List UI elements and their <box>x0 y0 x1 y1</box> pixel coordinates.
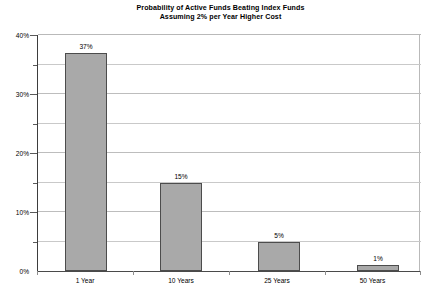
bar-1-year <box>65 53 107 271</box>
gridline-40 <box>38 34 421 35</box>
chart-title-line-2: Assuming 2% per Year Higher Cost <box>0 13 441 22</box>
y-axis-tick-20 <box>30 153 37 154</box>
bar-value-label-1-year: 37% <box>65 43 107 50</box>
x-axis-tick-1 <box>133 271 134 275</box>
x-axis-tick-3 <box>325 271 326 275</box>
bar-chart: Probability of Active Funds Beating Inde… <box>0 0 441 300</box>
x-axis-label-1-year: 1 Year <box>37 277 133 285</box>
x-axis-tick-4 <box>420 271 421 275</box>
bar-25-years <box>258 242 300 272</box>
chart-title-line-1: Probability of Active Funds Beating Inde… <box>0 4 441 13</box>
y-axis-tick-10 <box>30 212 37 213</box>
chart-title: Probability of Active Funds Beating Inde… <box>0 4 441 23</box>
y-axis-label-20: 20% <box>3 150 29 157</box>
bar-value-label-25-years: 5% <box>258 232 300 239</box>
y-axis-tick-30 <box>30 94 37 95</box>
x-axis-tick-2 <box>229 271 230 275</box>
x-axis-label-50-years: 50 Years <box>325 277 420 285</box>
y-axis-label-30: 30% <box>3 91 29 98</box>
bar-10-years <box>160 183 202 272</box>
x-axis-label-25-years: 25 Years <box>229 277 325 285</box>
x-axis-label-10-years: 10 Years <box>133 277 229 285</box>
y-axis-label-10: 10% <box>3 209 29 216</box>
y-axis-label-40: 40% <box>3 32 29 39</box>
y-axis-label-0: 0% <box>3 268 29 275</box>
bar-value-label-10-years: 15% <box>160 173 202 180</box>
y-axis-tick-40 <box>30 35 37 36</box>
x-axis-tick-0 <box>37 271 38 275</box>
bar-value-label-50-years: 1% <box>357 255 399 262</box>
